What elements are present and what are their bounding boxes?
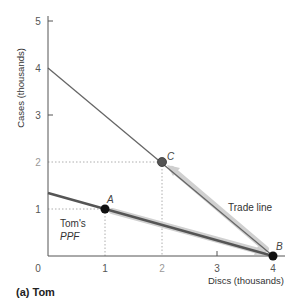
x-tick-label-1: 1 <box>102 263 108 274</box>
y-tick-label-4: 4 <box>35 63 41 74</box>
panel-title: (a) Tom <box>16 286 55 298</box>
ppf-chart: 5 4 3 2 1 0 1 2 3 4 Discs (thousands) Ca… <box>0 0 301 303</box>
x-tick-label-0: 0 <box>35 263 41 274</box>
point-a <box>101 205 110 214</box>
y-tick-label-2: 2 <box>35 157 41 168</box>
y-tick-label-3: 3 <box>35 110 41 121</box>
y-tick-label-5: 5 <box>35 16 41 27</box>
y-tick-label-1: 1 <box>35 204 41 215</box>
point-b-label: B <box>276 241 283 252</box>
point-c-label: C <box>167 151 175 162</box>
ppf-label-line1: Tom's <box>60 218 86 229</box>
x-axis-title: Discs (thousands) <box>208 275 284 286</box>
ppf-label-line2: PPF <box>60 231 80 242</box>
y-axis-title: Cases (thousands) <box>15 48 26 128</box>
x-tick-label-3: 3 <box>214 263 220 274</box>
trade-line-label: Trade line <box>228 202 273 213</box>
point-c <box>158 158 167 167</box>
point-b <box>269 252 278 261</box>
x-tick-label-2: 2 <box>159 263 165 274</box>
point-a-label: A <box>106 194 114 205</box>
x-tick-label-4: 4 <box>270 263 276 274</box>
